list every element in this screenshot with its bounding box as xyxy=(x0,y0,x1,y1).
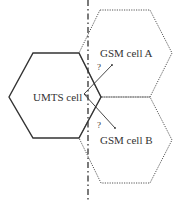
arrow-head-b-icon xyxy=(114,127,116,129)
question-mark-b: ? xyxy=(97,120,101,130)
question-mark-a: ? xyxy=(97,62,101,72)
handover-diagram: UMTS cell GSM cell A GSM cell B ? ? xyxy=(0,0,179,211)
arrow-head-a-icon xyxy=(111,64,113,66)
umts-cell-label: UMTS cell xyxy=(33,91,82,103)
gsm-cell-b-label: GSM cell B xyxy=(100,134,153,146)
gsm-cell-a-label: GSM cell A xyxy=(100,47,153,59)
